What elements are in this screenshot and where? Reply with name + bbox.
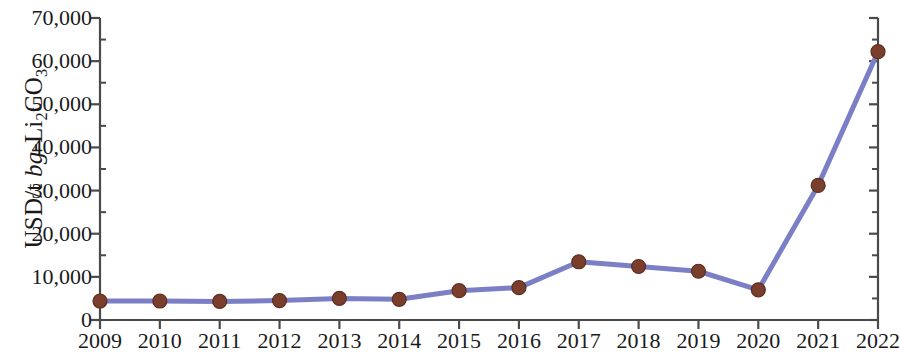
x-axis-tick-label: 2017 (557, 330, 601, 352)
x-axis-tick-label: 2013 (317, 330, 361, 352)
chart-data-markers (93, 45, 885, 309)
data-point-marker (691, 264, 705, 278)
x-axis-tick-label: 2020 (736, 330, 780, 352)
data-point-marker (153, 294, 167, 308)
x-axis-tick-label: 2016 (497, 330, 541, 352)
x-axis-tick-label: 2015 (437, 330, 481, 352)
x-axis-tick-label: 2022 (856, 330, 900, 352)
data-point-marker (871, 45, 885, 59)
data-point-marker (811, 178, 825, 192)
x-axis-tick-label: 2014 (377, 330, 421, 352)
data-point-marker (392, 292, 406, 306)
x-axis-tick-label: 2021 (796, 330, 840, 352)
series-line (100, 52, 878, 302)
x-axis-tick-labels: 2009201020112012201320142015201620172018… (0, 330, 897, 358)
data-point-marker (452, 284, 466, 298)
x-axis-tick-label: 2019 (676, 330, 720, 352)
x-axis-tick-label: 2009 (78, 330, 122, 352)
data-point-marker (632, 260, 646, 274)
data-point-marker (273, 294, 287, 308)
chart-axes (100, 18, 878, 320)
data-point-marker (332, 291, 346, 305)
data-point-marker (751, 283, 765, 297)
x-axis-tick-label: 2010 (138, 330, 182, 352)
chart-series (100, 52, 878, 302)
x-axis-tick-label: 2011 (198, 330, 241, 352)
data-point-marker (572, 255, 586, 269)
x-axis-tick-label: 2018 (617, 330, 661, 352)
data-point-marker (512, 281, 526, 295)
data-point-marker (213, 294, 227, 308)
data-point-marker (93, 294, 107, 308)
x-axis-tick-label: 2012 (258, 330, 302, 352)
